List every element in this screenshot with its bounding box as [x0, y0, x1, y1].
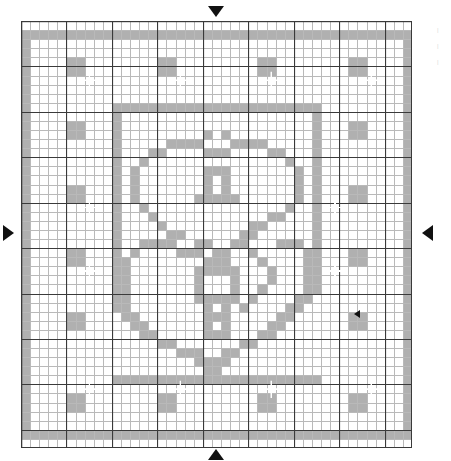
center-marker-top-icon	[208, 6, 224, 17]
margin-notes: | | |	[437, 27, 447, 66]
pattern-grid-canvas[interactable]	[21, 21, 412, 448]
pattern-grid[interactable]	[21, 21, 412, 448]
inner-marker-right-icon	[354, 310, 360, 318]
margin-note: |	[437, 43, 447, 50]
margin-note: |	[437, 27, 447, 34]
margin-note: |	[437, 59, 447, 66]
center-marker-bottom-icon	[208, 449, 224, 460]
center-marker-right-icon	[422, 225, 433, 241]
pattern-chart-root: | | |	[0, 0, 451, 461]
center-marker-left-icon	[3, 225, 14, 241]
